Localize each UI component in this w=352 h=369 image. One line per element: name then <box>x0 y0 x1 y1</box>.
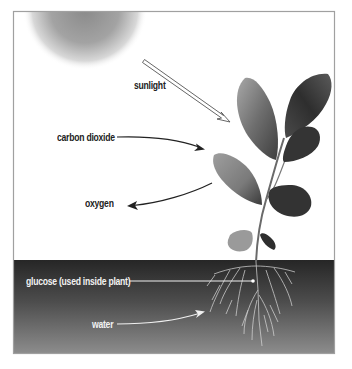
diagram-canvas <box>0 0 352 369</box>
photosynthesis-diagram: sunlight carbon dioxide oxygen glucose (… <box>0 0 352 369</box>
label-sunlight: sunlight <box>134 79 166 91</box>
label-glucose: glucose (used inside plant) <box>26 275 130 287</box>
label-water: water <box>92 318 113 330</box>
label-carbon-dioxide: carbon dioxide <box>57 131 115 143</box>
label-oxygen: oxygen <box>85 197 114 209</box>
